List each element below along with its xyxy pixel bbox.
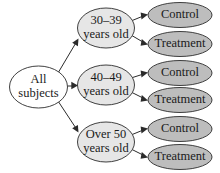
node-label: Treatment: [155, 149, 206, 163]
arrow-head-icon: [72, 125, 78, 133]
diagram-canvas: Control Treatment Control Treatment Cont…: [0, 0, 220, 173]
node-label: Treatment: [155, 36, 206, 50]
node-control-30-39[interactable]: Control: [148, 3, 212, 28]
edge-age-over-50-to-treatment: [131, 149, 148, 159]
arrow-head-icon: [71, 82, 78, 89]
arrow-head-icon: [72, 39, 78, 47]
node-label: Control: [161, 7, 200, 21]
edge-root-to-age-30-39: [58, 39, 79, 74]
arrow-head-icon: [141, 12, 148, 19]
node-label-line2: subjects: [18, 86, 58, 100]
leaf-node-group: Control Treatment Control Treatment Cont…: [148, 3, 212, 170]
node-label: Treatment: [155, 92, 206, 106]
tree-diagram: Control Treatment Control Treatment Cont…: [0, 0, 220, 173]
node-all-subjects[interactable]: All subjects: [10, 66, 68, 108]
node-label-line1: Over 50: [86, 127, 127, 141]
edge-line: [58, 44, 76, 74]
node-age-30-39[interactable]: 30–39 years old: [78, 8, 135, 48]
edge-age-over-50-to-control: [131, 126, 148, 135]
node-label-line1: 30–39: [90, 13, 121, 27]
node-label: Control: [161, 121, 200, 135]
edge-root-to-age-40-49: [68, 82, 79, 89]
edge-age-30-39-to-treatment: [131, 35, 148, 46]
node-label-line1: 40–49: [90, 70, 121, 84]
arrow-head-icon: [141, 126, 148, 133]
node-label: Control: [161, 65, 200, 79]
node-label-line1: All: [31, 72, 48, 86]
node-age-40-49[interactable]: 40–49 years old: [78, 65, 135, 105]
block-node-group: 30–39 years old 40–49 years old Over 50 …: [78, 8, 135, 162]
edge-age-40-49-to-control: [131, 70, 148, 78]
edge-age-30-39-to-control: [131, 12, 148, 21]
arrow-head-icon: [141, 152, 148, 159]
arrow-head-icon: [141, 95, 148, 102]
arrow-head-icon: [141, 39, 148, 46]
arrow-head-icon: [141, 70, 148, 77]
node-treatment-over-50[interactable]: Treatment: [148, 145, 212, 170]
node-label-line2: years old: [83, 84, 129, 98]
edge-line: [58, 101, 76, 128]
edge-age-40-49-to-treatment: [131, 92, 148, 102]
node-treatment-30-39[interactable]: Treatment: [148, 32, 212, 57]
node-label-line2: years old: [83, 141, 129, 155]
node-label-line2: years old: [83, 27, 129, 41]
node-treatment-40-49[interactable]: Treatment: [148, 88, 212, 113]
node-control-over-50[interactable]: Control: [148, 117, 212, 142]
node-age-over-50[interactable]: Over 50 years old: [78, 122, 135, 162]
node-control-40-49[interactable]: Control: [148, 61, 212, 86]
edge-root-to-age-over-50: [58, 101, 79, 133]
